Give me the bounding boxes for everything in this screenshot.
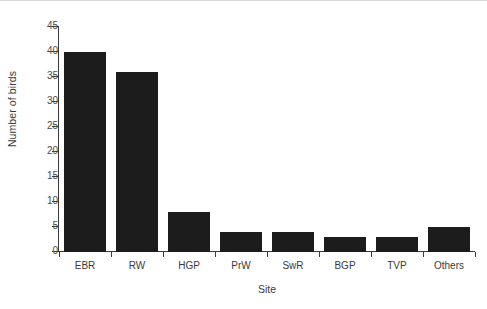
bar bbox=[64, 52, 107, 252]
bar bbox=[428, 227, 471, 252]
x-axis-tick-label: BGP bbox=[319, 260, 371, 272]
bar bbox=[324, 237, 367, 252]
y-axis-tick-label: 15 bbox=[14, 171, 58, 181]
bar bbox=[272, 232, 315, 252]
x-axis-tick-label: EBR bbox=[59, 260, 111, 272]
x-axis-tick-label: PrW bbox=[215, 260, 267, 272]
y-axis-title: Number of birds bbox=[6, 49, 18, 169]
y-axis-tick-label: 45 bbox=[14, 21, 58, 31]
x-axis-tick bbox=[59, 252, 60, 257]
x-axis-tick-label: HGP bbox=[163, 260, 215, 272]
bar-slot bbox=[319, 26, 371, 252]
x-axis-tick-label: TVP bbox=[371, 260, 423, 272]
bar-slot bbox=[267, 26, 319, 252]
x-axis-tick bbox=[267, 252, 268, 257]
bar-slot bbox=[215, 26, 267, 252]
x-axis-tick bbox=[475, 252, 476, 257]
bar-slot bbox=[111, 26, 163, 252]
x-axis-tick bbox=[163, 252, 164, 257]
y-axis-tick-label: 20 bbox=[14, 146, 58, 156]
y-axis-tick-label: 35 bbox=[14, 71, 58, 81]
x-axis-tick-label: RW bbox=[111, 260, 163, 272]
y-axis-tick-label: 5 bbox=[14, 221, 58, 231]
bar bbox=[116, 72, 159, 252]
bar bbox=[220, 232, 263, 252]
x-axis-title: Site bbox=[59, 283, 475, 295]
y-axis-tick-label: 0 bbox=[14, 246, 58, 256]
y-axis-tick-label: 25 bbox=[14, 121, 58, 131]
bar-slot bbox=[59, 26, 111, 252]
bar bbox=[168, 212, 211, 252]
x-axis-tick bbox=[423, 252, 424, 257]
x-axis-tick bbox=[371, 252, 372, 257]
bar-chart-figure: 051015202530354045 Number of birds Site … bbox=[0, 0, 487, 309]
y-axis-tick-label: 10 bbox=[14, 196, 58, 206]
x-axis-tick bbox=[319, 252, 320, 257]
x-axis-tick-label: SwR bbox=[267, 260, 319, 272]
bar-slot bbox=[371, 26, 423, 252]
y-axis-tick-label: 30 bbox=[14, 96, 58, 106]
x-axis-tick bbox=[215, 252, 216, 257]
bar bbox=[376, 237, 419, 252]
bar-slot bbox=[163, 26, 215, 252]
y-axis-tick-label: 40 bbox=[14, 46, 58, 56]
bar-slot bbox=[423, 26, 475, 252]
bar-series bbox=[59, 26, 475, 252]
x-axis-tick-label: Others bbox=[423, 260, 475, 272]
x-axis-tick bbox=[111, 252, 112, 257]
